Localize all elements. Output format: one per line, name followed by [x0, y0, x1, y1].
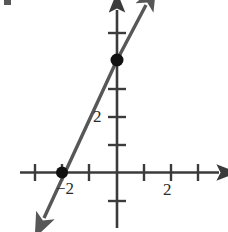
graph-canvas	[0, 0, 228, 232]
y-axis	[108, 10, 126, 228]
point-x-intercept	[56, 167, 68, 179]
x-axis	[20, 164, 219, 181]
line-segment-down	[44, 60, 117, 218]
point-y-intercept	[111, 54, 124, 67]
linear-function-graph: 2 2 −2	[0, 0, 228, 232]
x-intercept-tick-label: −2	[56, 180, 74, 197]
x-axis-tick-label-2: 2	[163, 181, 172, 198]
y-axis-tick-label-2: 2	[93, 108, 102, 125]
scan-artifact-mark	[4, 0, 11, 5]
